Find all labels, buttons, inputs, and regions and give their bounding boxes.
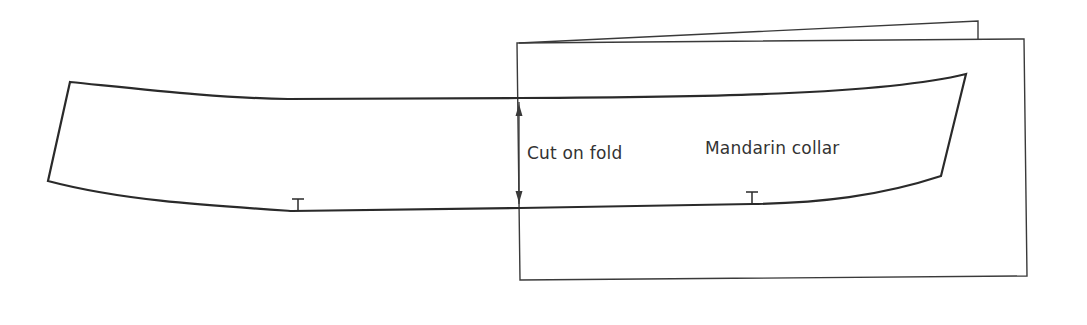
cut-on-fold-label: Cut on fold	[527, 143, 622, 163]
mandarin-collar-label: Mandarin collar	[705, 138, 840, 158]
notch-right	[746, 192, 758, 204]
arrow-up-icon	[516, 104, 523, 116]
arrow-down-icon	[516, 191, 523, 203]
notch-left	[292, 199, 304, 211]
fold-line-arrow	[516, 102, 523, 204]
